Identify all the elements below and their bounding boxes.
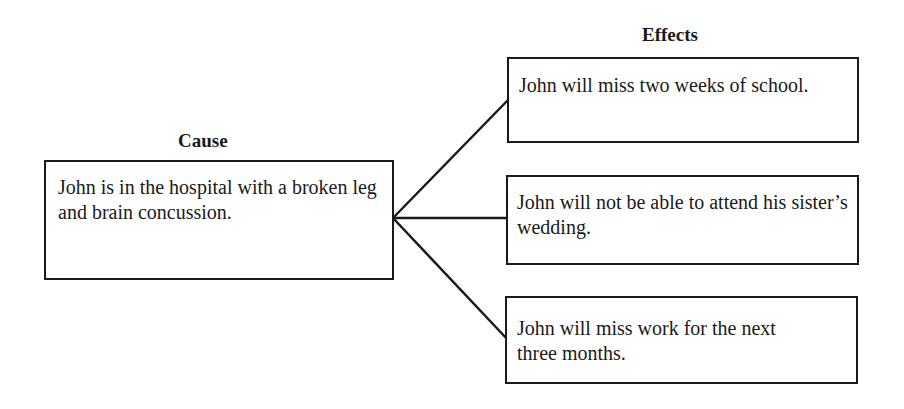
cause-heading: Cause <box>178 130 228 152</box>
effect-box-1: John will miss two weeks of school. <box>507 57 859 143</box>
connector-effect-1 <box>393 100 508 218</box>
effects-heading: Effects <box>642 24 698 46</box>
effect-text-1: John will miss two weeks of school. <box>519 73 834 98</box>
effect-box-3: John will miss work for the next three m… <box>505 296 858 384</box>
effect-text-3: John will miss work for the next three m… <box>517 316 817 366</box>
effect-box-2: John will not be able to attend his sist… <box>506 175 859 265</box>
connector-effect-3 <box>393 218 508 340</box>
cause-box: John is in the hospital with a broken le… <box>44 160 394 280</box>
effect-text-2: John will not be able to attend his sist… <box>517 190 862 240</box>
cause-text: John is in the hospital with a broken le… <box>58 175 388 225</box>
